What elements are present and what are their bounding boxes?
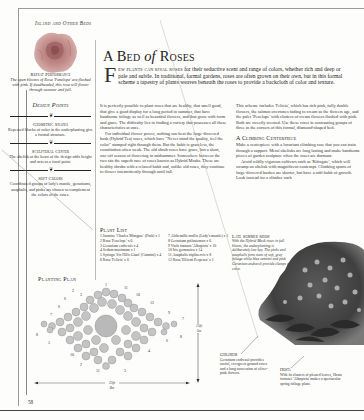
divider: ❦	[10, 141, 91, 146]
ornament-icon: ❦	[48, 140, 54, 146]
divider: ❦	[10, 114, 91, 119]
design-point-text: Repeated blocks of color in the underpla…	[8, 127, 93, 137]
plan-width-label: 25ft 8m	[105, 381, 119, 390]
svg-text:7: 7	[50, 312, 52, 317]
svg-text:11: 11	[96, 368, 100, 373]
ornament-icon: ❦	[48, 113, 54, 119]
svg-text:4: 4	[148, 348, 150, 353]
repeat-performance-note: Repeat Performance The open blooms of Ro…	[8, 72, 93, 93]
hosta-leader-line	[290, 355, 305, 369]
crease-line	[160, 20, 260, 340]
svg-text:8: 8	[36, 332, 38, 337]
svg-text:2: 2	[80, 362, 82, 367]
design-point: Geometric Shapes Repeated blocks of colo…	[8, 122, 93, 137]
plant-list-left: 1 Jasmine 'Charles Mongase' (Pink) x 1 2…	[100, 234, 162, 263]
geranium-caption-text: Geranium endressii provides useful, ever…	[220, 358, 270, 376]
design-points-heading: Design Points	[8, 101, 93, 108]
svg-text:3: 3	[124, 368, 126, 373]
sidebar-leader-line	[0, 150, 95, 230]
geranium-caption: Geranium Geranium endressii provides use…	[220, 353, 270, 376]
page-number: 58	[28, 399, 33, 405]
frame-line-sidebar	[95, 40, 96, 280]
garden-photo	[255, 240, 364, 345]
running-head: Island and Other Beds	[35, 20, 91, 26]
svg-text:10: 10	[70, 352, 74, 357]
svg-text:2: 2	[72, 288, 74, 293]
book-page: Island and Other Beds Repeat Performance…	[0, 0, 364, 420]
svg-text:11: 11	[124, 285, 128, 290]
plant-list-item: 6 Rosa 'Felicia' x 6	[100, 258, 162, 263]
svg-text:3: 3	[80, 292, 82, 297]
repeat-performance-text: The open blooms of Rosa 'Penelope' are f…	[8, 77, 93, 93]
svg-text:12: 12	[150, 300, 154, 305]
bottom-rule	[0, 410, 364, 411]
rose-photo	[30, 30, 80, 75]
drop-cap: F	[104, 66, 116, 84]
svg-text:10: 10	[136, 292, 140, 297]
hosta-caption-text: With its clusters of pleated leaves, Hos…	[280, 373, 342, 387]
hosta-caption: Hosta With its clusters of pleated leave…	[280, 368, 342, 386]
svg-text:5: 5	[48, 340, 50, 345]
svg-text:6: 6	[64, 296, 66, 301]
svg-text:1: 1	[105, 282, 107, 287]
frame-line-top	[18, 8, 364, 9]
svg-text:6: 6	[58, 304, 60, 309]
